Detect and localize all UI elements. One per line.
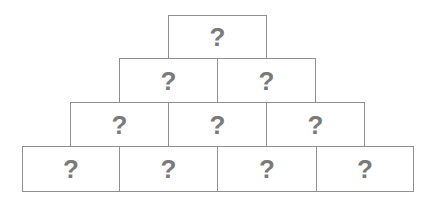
- pyramid-cell-r3-c2: ?: [168, 102, 267, 147]
- pyramid-cell-r2-c1: ?: [119, 58, 218, 103]
- question-mark: ?: [259, 68, 275, 94]
- pyramid-cell-r4-c4: ?: [316, 146, 414, 192]
- question-mark: ?: [210, 112, 226, 138]
- pyramid-cell-r3-c1: ?: [70, 102, 169, 147]
- question-mark: ?: [161, 68, 177, 94]
- pyramid-cell-r4-c2: ?: [119, 146, 218, 192]
- pyramid-cell-r4-c3: ?: [217, 146, 317, 192]
- pyramid-cell-r2-c2: ?: [217, 58, 316, 103]
- question-mark: ?: [357, 156, 373, 182]
- question-mark: ?: [259, 156, 275, 182]
- pyramid-cell-r3-c3: ?: [266, 102, 365, 147]
- pyramid-cell-r1-c1: ?: [168, 15, 267, 59]
- question-mark: ?: [161, 156, 177, 182]
- question-mark: ?: [210, 24, 226, 50]
- question-mark: ?: [112, 112, 128, 138]
- pyramid-cell-r4-c1: ?: [22, 146, 120, 192]
- question-mark: ?: [308, 112, 324, 138]
- question-mark: ?: [63, 156, 79, 182]
